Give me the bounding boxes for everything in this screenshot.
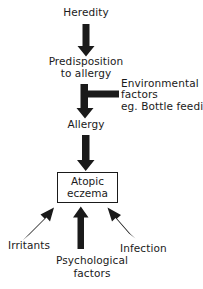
node-heredity: Heredity: [0, 7, 172, 19]
diagram-canvas: Heredity Predisposition to allergy Envir…: [0, 0, 203, 289]
arrow-infection-to-atopic-eczema: [108, 208, 136, 239]
node-allergy: Allergy: [0, 119, 172, 131]
node-environmental-factors: Environmental factors eg. Bottle feeding: [121, 78, 203, 112]
node-predisposition-to-allergy: Predisposition to allergy: [0, 56, 172, 79]
node-infection: Infection: [120, 243, 192, 255]
arrow-irritants-to-atopic-eczema: [23, 208, 55, 241]
arrow-allergy-to-atopic-eczema: [77, 135, 95, 171]
arrow-heredity-to-predisposition: [78, 24, 95, 57]
node-atopic-eczema-label: Atopic eczema: [58, 176, 117, 200]
node-psychological-factors: Psychological factors: [44, 254, 140, 279]
arrow-predisposition-to-allergy: [77, 84, 120, 119]
node-irritants: Irritants: [8, 240, 66, 252]
arrow-psychological-to-atopic-eczema: [73, 207, 89, 250]
node-atopic-eczema-box: Atopic eczema: [57, 172, 118, 203]
